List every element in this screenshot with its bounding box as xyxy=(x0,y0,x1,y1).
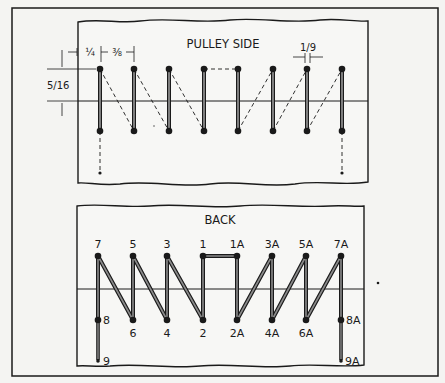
back-panel: BACK 7 5 3 1 1A 3A 5A 7A xyxy=(77,205,364,368)
hole-label: 1A xyxy=(230,238,245,251)
hole-label: 3A xyxy=(265,238,280,251)
wire-gap-label: 1/9 xyxy=(300,42,316,53)
hole-label: 7 xyxy=(95,238,102,251)
belt-end-outline xyxy=(77,205,364,367)
print-speck xyxy=(153,125,155,127)
hole-label: 5A xyxy=(299,238,314,251)
print-speck xyxy=(377,282,380,285)
panel-title: PULLEY SIDE xyxy=(187,37,260,51)
belt-lacing-diagram: PULLEY SIDE 5/16 ¼ ⅜ 1 xyxy=(0,0,445,383)
pulley-side-panel: PULLEY SIDE 5/16 ¼ ⅜ 1 xyxy=(47,19,368,185)
edge-offset-label: ¼ xyxy=(85,47,95,58)
hole-spacing-label: ⅜ xyxy=(112,47,122,58)
hole-label: 4 xyxy=(164,327,171,340)
hole-label: 9 xyxy=(103,355,110,368)
hole-label: 5 xyxy=(130,238,137,251)
hole-label: 8A xyxy=(346,314,361,327)
hole-label: 9A xyxy=(345,355,360,368)
panel-title: BACK xyxy=(204,213,236,227)
hole-label: 8 xyxy=(103,314,110,327)
hole-label: 4A xyxy=(265,327,280,340)
hole-label: 1 xyxy=(200,238,207,251)
hole-label: 7A xyxy=(334,238,349,251)
hole-label: 3 xyxy=(164,238,171,251)
hole-label: 2 xyxy=(200,327,207,340)
row-spacing-label: 5/16 xyxy=(47,80,69,91)
hole-label: 6 xyxy=(130,327,137,340)
hole-label: 6A xyxy=(299,327,314,340)
hole-label: 2A xyxy=(230,327,245,340)
